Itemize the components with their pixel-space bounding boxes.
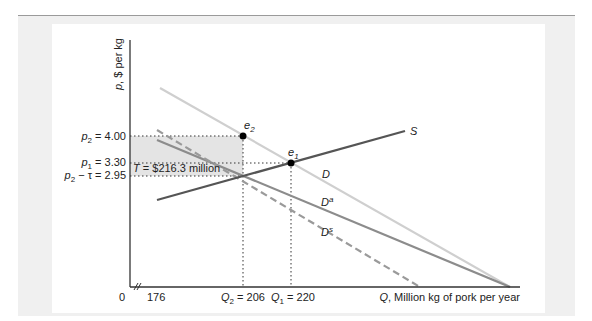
tax-revenue-label: T = $216.3 million: [133, 162, 220, 174]
axis-break-label: 176: [147, 291, 165, 303]
price-label-p2: p2 = 4.00: [80, 130, 126, 145]
curve-label-s: S: [410, 125, 418, 137]
curve-label-ds: Ds: [321, 225, 333, 238]
quantity-label-q2: Q2 = 206: [221, 291, 265, 306]
point-label-e2: e2: [244, 119, 255, 134]
point-label-e1: e1: [288, 146, 299, 161]
tariff-diagram: p, $ per kg p2 = 4.00 p1 = 3.30 p2 − τ =…: [0, 0, 592, 321]
origin-label: 0: [119, 291, 125, 303]
price-label-p2-tau: p2 − τ = 2.95: [64, 169, 126, 184]
demand-curve-d: [160, 88, 510, 287]
curve-label-d: D: [322, 168, 330, 180]
quantity-label-q1: Q1 = 220: [271, 291, 315, 306]
equilibrium-point-e2: [240, 133, 247, 140]
y-axis-label: p, $ per kg: [112, 38, 124, 91]
curve-label-da: Da: [321, 195, 334, 208]
x-axis-label: Q, Million kg of pork per year: [379, 291, 520, 303]
